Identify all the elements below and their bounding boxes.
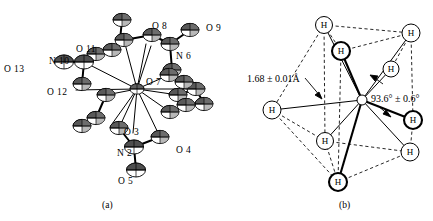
svg-text:H: H bbox=[321, 20, 328, 30]
panel-b-caption: (b) bbox=[339, 200, 350, 210]
svg-text:H: H bbox=[407, 147, 414, 157]
svg-text:H: H bbox=[335, 177, 342, 187]
svg-text:H: H bbox=[338, 46, 345, 56]
figure-canvas: O 13 N 10 O 11 O 12 O 8 O 9 N 6 O 7 O 3 … bbox=[0, 0, 433, 221]
svg-text:H: H bbox=[408, 28, 415, 38]
panel-b-graphic: H H H H H H H H H bbox=[0, 0, 433, 221]
svg-text:H: H bbox=[322, 136, 329, 146]
bond-angle-annotation: 93.6° ± 0.6° bbox=[371, 93, 420, 104]
svg-text:H: H bbox=[410, 115, 417, 125]
svg-text:H: H bbox=[388, 64, 395, 74]
panel-a-caption: (a) bbox=[102, 200, 113, 210]
bond-length-annotation: 1.68 ± 0.01Å bbox=[247, 73, 300, 84]
svg-text:H: H bbox=[269, 105, 276, 115]
